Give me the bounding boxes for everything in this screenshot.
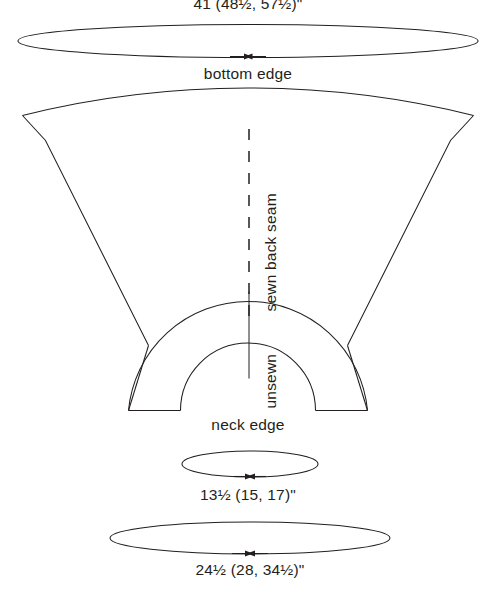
garment-bottom-edge-arc <box>23 88 474 116</box>
neck-ellipse-group <box>182 451 318 480</box>
mid-measurement-label: 24½ (28, 34½)" <box>195 562 304 578</box>
unsewn-label: unsewn <box>263 354 279 409</box>
neck-edge-label: neck edge <box>211 417 284 433</box>
garment-schematic-diagram: 41 (48½, 57½)" bottom edge sewn back sea… <box>0 0 496 590</box>
top-measurement-label: 41 (48½, 57½)" <box>193 0 302 12</box>
left-yoke-connector <box>129 346 149 411</box>
sewn-back-seam-label: sewn back seam <box>263 193 279 311</box>
cape-body-outline <box>23 88 474 411</box>
top-edge-ellipse-group <box>18 25 478 60</box>
left-side-seam <box>23 116 149 346</box>
neck-edge-arc <box>181 343 316 411</box>
neck-measurement-label: 13½ (15, 17)" <box>200 487 296 503</box>
right-side-seam <box>348 116 474 346</box>
neck-measure-arrow <box>234 473 266 479</box>
bottom-edge-label: bottom edge <box>204 66 292 82</box>
mid-ellipse-group <box>110 522 390 557</box>
neck-ellipse <box>182 451 318 477</box>
top-edge-measure-arrow <box>230 53 266 59</box>
right-yoke-connector <box>348 346 368 411</box>
mid-measure-arrow <box>232 550 268 556</box>
top-edge-ellipse <box>18 25 478 58</box>
yoke-outer-arc <box>129 301 368 410</box>
mid-ellipse <box>110 522 390 554</box>
